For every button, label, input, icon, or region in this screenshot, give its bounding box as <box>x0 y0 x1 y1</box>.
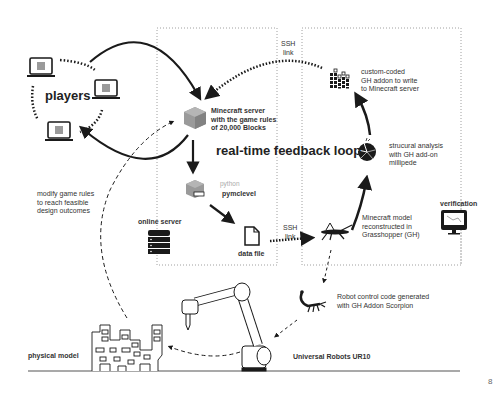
structural-line-1: strucural analysis <box>389 142 443 151</box>
minecraft-server-label: Minecraft server with the game rules of … <box>211 107 276 133</box>
grasshopper-icon <box>321 223 352 240</box>
structural-analysis-label: strucural analysis with GH add-on millip… <box>389 142 443 168</box>
modify-rules-line-2: to reach feasible <box>37 199 94 208</box>
grasshopper-line-2: reconstructed in <box>362 223 420 232</box>
online-server-label: online server <box>138 218 182 227</box>
modify-rules-line-1: modify game rules <box>37 190 94 199</box>
ssh-top-line-2: link <box>281 49 295 58</box>
pymclevel-icon <box>186 180 204 198</box>
page-number: 8 <box>488 378 492 387</box>
minecraft-block-icon <box>184 107 206 129</box>
scorpion-label: Robot control code generated with GH Add… <box>337 293 429 310</box>
robot-arm-icon <box>182 283 271 371</box>
minecraft-server-line-1: Minecraft server <box>211 107 276 116</box>
modify-rules-line-3: design outcomes <box>37 207 94 216</box>
ssh-top-arc <box>210 61 322 95</box>
custom-addon-line-3: to Minecraft server <box>361 85 419 94</box>
block-grid-icon <box>330 69 349 89</box>
robot-label: Universal Robots UR10 <box>293 353 370 362</box>
scorpion-line-1: Robot control code generated <box>337 293 429 302</box>
verification-label: verification <box>440 200 477 209</box>
minecraft-server-line-2: with the game rules <box>211 116 276 125</box>
diagram-title: real-time feedback loop <box>216 143 361 158</box>
structural-line-2: with GH add-on <box>389 151 443 160</box>
laptop-icon <box>27 58 55 77</box>
python-logo-label: python <box>220 180 240 189</box>
pymclevel-label: pymclevel <box>222 190 256 199</box>
server-rack-icon <box>148 230 170 254</box>
custom-addon-line-1: custom-coded <box>361 68 419 77</box>
file-icon <box>245 227 259 245</box>
custom-addon-label: custom-coded GH addon to write to Minecr… <box>361 68 419 94</box>
data-file-label: data file <box>238 250 264 259</box>
scorpion-icon <box>300 290 326 312</box>
custom-addon-line-2: GH addon to write <box>361 77 419 86</box>
ssh-top-line-1: SSH <box>281 40 295 49</box>
monitor-icon <box>441 210 467 235</box>
structural-line-3: millipede <box>389 159 443 168</box>
laptop-icon <box>45 122 73 141</box>
ssh-link-bottom-label: SSH link <box>283 224 297 241</box>
minecraft-server-line-3: of 20,000 Blocks <box>211 124 276 133</box>
arrow-server-to-players <box>84 130 188 159</box>
ssh-bottom-line-2: link <box>283 233 297 242</box>
players-label: players <box>45 88 91 103</box>
modify-rules-label: modify game rules to reach feasible desi… <box>37 190 94 216</box>
grasshopper-line-3: Grasshopper (GH) <box>362 231 420 240</box>
grasshopper-model-label: Minecraft model reconstructed in Grassho… <box>362 214 420 240</box>
scorpion-line-2: with GH Addon Scorpion <box>337 302 429 311</box>
laptop-icon <box>92 80 120 99</box>
physical-model-label: physical model <box>28 352 79 361</box>
ssh-bottom-line-1: SSH <box>283 224 297 233</box>
physical-model-icon <box>92 325 162 371</box>
grasshopper-line-1: Minecraft model <box>362 214 420 223</box>
ssh-link-top-label: SSH link <box>281 40 295 57</box>
